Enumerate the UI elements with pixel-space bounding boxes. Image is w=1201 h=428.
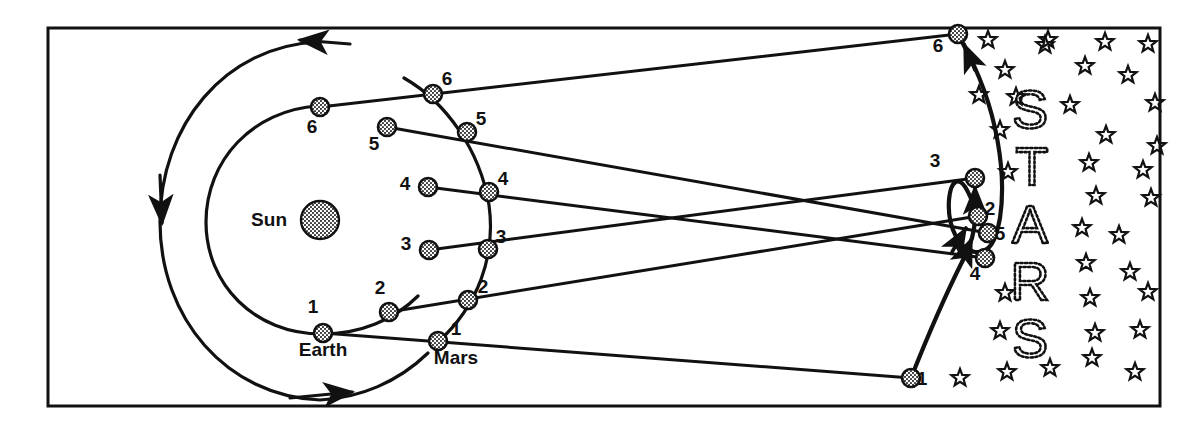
mars-position-number-2: 2: [478, 276, 489, 297]
earth-position-number-1: 1: [308, 296, 319, 317]
apparent-position-number-6: 6: [933, 35, 944, 56]
stars-letter-S-4: S: [1012, 308, 1048, 368]
stars-letter-T-1: T: [1016, 136, 1049, 196]
stars-word: STARS: [1011, 79, 1050, 368]
apparent-position-number-5: 5: [995, 223, 1006, 244]
mars-position-marker-2: [459, 291, 477, 309]
mars-position-marker-5: [458, 123, 476, 141]
mars-position-number-4: 4: [498, 168, 509, 189]
mars-position-number-5: 5: [476, 108, 487, 129]
earth-position-number-6: 6: [307, 116, 318, 137]
mars-position-number-1: 1: [451, 318, 462, 339]
mars-position-marker-6: [424, 85, 442, 103]
earth-position-marker-6: [311, 98, 329, 116]
stars-letter-A-2: A: [1012, 194, 1048, 254]
earth-position-marker-2: [380, 303, 398, 321]
apparent-position-number-4: 4: [970, 263, 981, 284]
stars-letter-R-3: R: [1011, 251, 1050, 311]
earth-position-number-4: 4: [400, 173, 411, 194]
sun-disc: [301, 201, 339, 239]
earth-orbit-arrow-left: [160, 175, 162, 223]
apparent-position-marker-6: [949, 25, 967, 43]
apparent-position-marker-3: [966, 169, 984, 187]
mars-position-number-6: 6: [442, 68, 453, 89]
mars-label: Mars: [434, 347, 478, 368]
sun-label: Sun: [251, 209, 287, 230]
apparent-position-number-3: 3: [930, 150, 941, 171]
earth-position-number-5: 5: [369, 133, 380, 154]
earth-position-marker-5: [378, 118, 396, 136]
earth-position-marker-4: [419, 178, 437, 196]
mars-position-number-3: 3: [496, 226, 507, 247]
earth-position-number-2: 2: [375, 277, 386, 298]
apparent-position-number-2: 2: [985, 198, 996, 219]
figure-canvas: Sun 123456 123456 123456 Earth Mars STAR…: [0, 0, 1201, 428]
earth-label: Earth: [299, 339, 348, 360]
earth-position-number-3: 3: [401, 233, 412, 254]
retrograde-motion-diagram: Sun 123456 123456 123456 Earth Mars STAR…: [0, 0, 1201, 428]
mars-position-marker-4: [480, 183, 498, 201]
stars-letter-S-0: S: [1012, 79, 1048, 139]
apparent-position-number-1: 1: [917, 368, 928, 389]
mars-position-marker-3: [479, 240, 497, 258]
earth-position-marker-3: [420, 241, 438, 259]
